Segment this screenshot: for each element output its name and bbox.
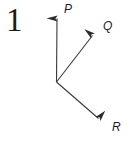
vector-arrow-q	[57, 36, 93, 83]
vector-label-q: Q	[103, 20, 112, 32]
vector-arrow-r	[57, 82, 99, 119]
vector-label-r: R	[112, 121, 121, 133]
vector-arrow-p	[57, 19, 58, 83]
vector-diagram-figure: 1 P Q R	[0, 0, 132, 141]
vector-label-p: P	[64, 3, 72, 15]
